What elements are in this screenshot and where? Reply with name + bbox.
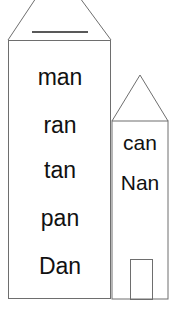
word-tan: tan xyxy=(9,159,111,182)
word-ran: ran xyxy=(9,114,111,137)
small-house-door xyxy=(131,260,153,300)
big-house-roof xyxy=(8,0,111,40)
small-house-roof xyxy=(112,75,168,121)
word-dan: Dan xyxy=(9,255,111,278)
word-can: can xyxy=(112,132,168,153)
word-nan: Nan xyxy=(112,172,168,193)
word-man: man xyxy=(9,66,111,89)
word-pan: pan xyxy=(9,207,111,230)
